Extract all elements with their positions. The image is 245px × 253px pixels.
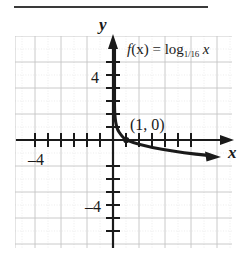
graph-canvas [0,0,245,253]
x-axis-label: x [228,144,237,161]
point-coordinate-label: (1, 0) [130,117,165,133]
y-axis-tick-label-negative: –4 [85,199,101,215]
equals-sign: = [149,41,165,57]
y-axis-tick-label-positive: 4 [91,70,99,86]
x-axis-tick-label-negative: –4 [28,152,44,168]
log-base: 1/16 [184,49,199,59]
function-argument: (x) [131,41,149,57]
function-equation-label: f(x) = log1/16 x [127,42,209,59]
logarithmic-function-graph-figure: y x 4 –4 –4 f(x) = log1/16 x (1, 0) [0,0,245,253]
function-variable: x [203,41,210,57]
y-axis-label: y [99,16,107,33]
log-operator: log [165,41,184,57]
point-marker-1-0 [123,137,129,143]
